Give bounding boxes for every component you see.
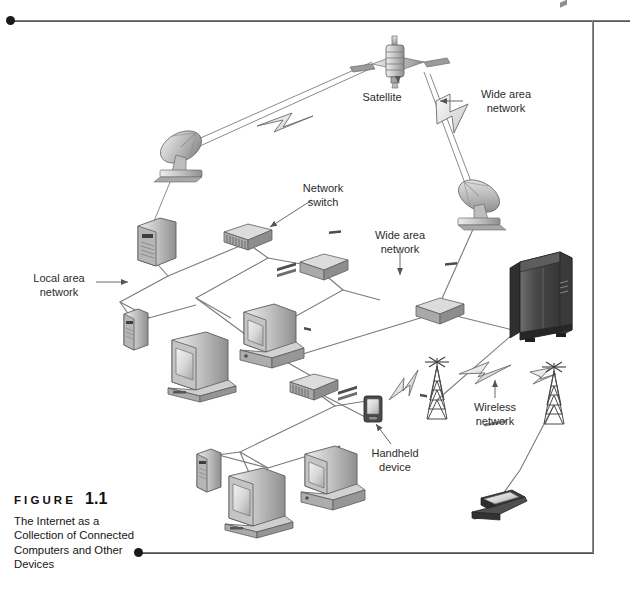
figure-caption: FIGURE 1.1 The Internet as a Collection … (14, 490, 134, 572)
device-server-tower-1 (138, 218, 176, 266)
figure-page: Satellite Wide areanetwork Networkswitch… (0, 0, 644, 600)
device-handheld (364, 396, 382, 422)
device-network-switch-2 (300, 230, 348, 331)
device-mini-tower-1 (124, 309, 148, 350)
device-radio-tower-1 (425, 357, 449, 419)
device-desktop-crt-2 (225, 468, 293, 538)
device-satellite-dish-right (453, 173, 506, 230)
label-local-area-network: Local areanetwork (22, 272, 96, 299)
device-mini-tower-2 (197, 449, 221, 492)
device-desktop-pc-1 (240, 263, 304, 368)
device-network-switch-3 (290, 374, 338, 400)
device-desktop-crt-1 (168, 332, 236, 402)
figure-heading: FIGURE 1.1 (14, 490, 134, 508)
label-satellite: Satellite (352, 91, 412, 105)
device-laptop (472, 420, 527, 520)
label-wide-area-network-middle: Wide areanetwork (362, 229, 438, 256)
label-handheld-device: Handhelddevice (362, 447, 428, 474)
device-satellite-dish-left (154, 124, 207, 182)
figure-caption-text: The Internet as a Collection of Connecte… (14, 514, 142, 572)
device-satellite (350, 36, 450, 88)
figure-number: 1.1 (85, 490, 107, 508)
label-wireless-network: Wirelessnetwork (463, 401, 527, 428)
label-wide-area-network-top: Wide areanetwork (468, 88, 544, 115)
label-network-switch: Networkswitch (292, 182, 354, 209)
device-mainframe (510, 0, 572, 342)
device-network-switch-1 (224, 224, 272, 250)
figure-label: FIGURE (14, 494, 76, 506)
device-router-1 (416, 262, 464, 398)
